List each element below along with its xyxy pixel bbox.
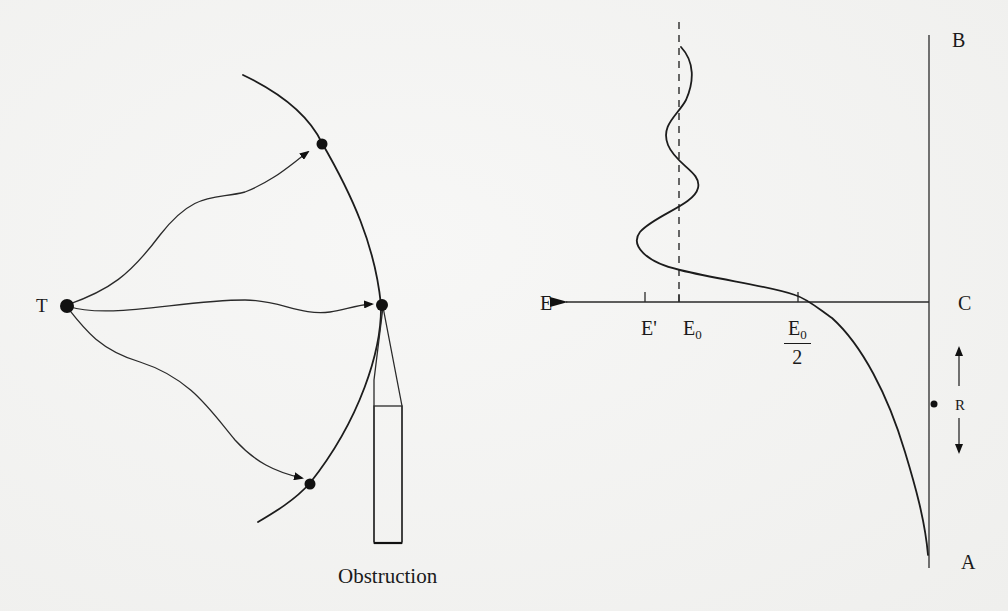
ray-middle (67, 300, 372, 313)
label-c: C (958, 293, 971, 313)
label-a: A (961, 552, 975, 572)
diagram-canvas (0, 0, 1008, 611)
wavefront-point-middle (376, 299, 388, 311)
receiver-dot (931, 401, 938, 408)
diagram-page: T Obstruction B C A E E' E0 E0 2 R (0, 0, 1008, 611)
wavefront-point-lower (305, 479, 316, 490)
label-r: R (955, 398, 965, 413)
label-transmitter: T (36, 296, 48, 315)
diffracted-ray-right (383, 307, 402, 542)
label-e-zero: E0 (683, 318, 702, 341)
label-obstruction: Obstruction (338, 566, 437, 587)
label-e-axis: E (540, 293, 552, 313)
obstruction-plate (374, 406, 402, 543)
label-e-prime: E' (641, 318, 657, 338)
field-strength-curve (637, 47, 928, 555)
wavefront-point-upper (317, 139, 328, 150)
diffracted-ray-left (374, 307, 383, 542)
ray-lower (67, 307, 302, 478)
label-e-half: E0 2 (784, 318, 811, 367)
transmitter-dot (60, 299, 74, 313)
label-b: B (952, 30, 965, 50)
wavefront-arc (243, 75, 381, 522)
ray-upper (67, 152, 308, 305)
